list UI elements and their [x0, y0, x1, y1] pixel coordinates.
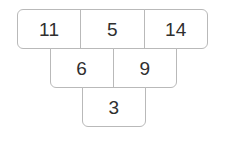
pyramid-cell: 14	[144, 9, 208, 49]
pyramid-cell: 9	[113, 48, 177, 88]
pyramid-cell: 5	[80, 9, 144, 49]
pyramid-row-top: 11 5 14	[17, 9, 210, 49]
pyramid-cell: 3	[82, 87, 146, 127]
pyramid-cell: 11	[17, 9, 81, 49]
number-pyramid-diagram: 11 5 14 6 9 3	[0, 0, 226, 144]
pyramid-row-bottom: 3	[82, 87, 147, 127]
pyramid-row-middle: 6 9	[50, 48, 179, 88]
pyramid-cell: 6	[50, 48, 114, 88]
